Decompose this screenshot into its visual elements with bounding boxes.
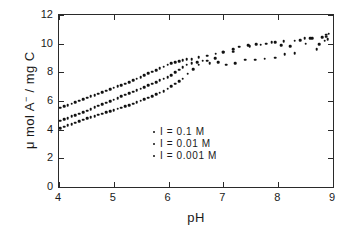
- data-point: [116, 108, 119, 111]
- data-point: [239, 46, 242, 49]
- data-point: [82, 98, 85, 101]
- data-point: [274, 56, 277, 59]
- data-point: [174, 61, 177, 64]
- data-point: [214, 57, 217, 60]
- data-point: [105, 89, 108, 92]
- chart-figure: μ mol A− / mg C pH 456789024681012 I = 0…: [0, 0, 346, 236]
- data-point: [70, 115, 73, 118]
- data-point: [143, 98, 146, 101]
- data-point: [132, 102, 135, 105]
- data-point: [97, 113, 100, 116]
- data-point: [113, 109, 116, 112]
- data-point: [109, 110, 112, 113]
- x-axis-tick: [278, 15, 279, 20]
- data-point: [59, 107, 61, 110]
- data-point: [254, 58, 257, 61]
- data-point: [225, 64, 228, 67]
- data-point: [159, 91, 162, 94]
- data-point: [289, 45, 292, 48]
- data-point: [74, 101, 77, 104]
- legend-item: I = 0.01 M: [148, 138, 258, 150]
- data-point: [327, 32, 330, 35]
- data-point: [186, 72, 189, 75]
- data-point: [78, 112, 81, 115]
- data-point: [147, 84, 150, 87]
- data-point: [132, 90, 135, 93]
- data-point: [86, 97, 89, 100]
- data-point: [282, 40, 285, 43]
- data-point: [86, 117, 89, 120]
- y-tick-label: 10: [29, 37, 53, 49]
- x-axis-tick: [278, 182, 279, 187]
- data-point: [182, 66, 185, 69]
- data-point: [93, 115, 96, 118]
- data-point: [206, 55, 209, 58]
- x-tick-label: 7: [211, 191, 233, 203]
- data-point: [74, 121, 77, 124]
- data-point: [178, 60, 181, 63]
- data-point: [59, 119, 61, 122]
- data-point: [116, 97, 119, 100]
- data-point: [178, 68, 181, 71]
- data-point: [101, 103, 104, 106]
- data-point: [155, 69, 158, 72]
- data-point: [222, 50, 225, 53]
- x-axis-tick: [114, 15, 115, 20]
- legend-marker-icon: [148, 131, 160, 134]
- data-point: [259, 44, 262, 47]
- data-point: [311, 37, 314, 40]
- x-axis-tick: [59, 182, 60, 187]
- data-point: [196, 61, 199, 64]
- data-point: [151, 70, 154, 73]
- y-axis-tick: [328, 158, 333, 159]
- chart-legend: I = 0.1 M I = 0.01 M I = 0.001 M: [148, 126, 258, 162]
- data-point: [234, 62, 237, 65]
- data-point: [124, 105, 127, 108]
- data-point: [192, 68, 195, 71]
- x-axis-tick: [169, 182, 170, 187]
- data-point: [170, 85, 173, 88]
- data-point: [206, 59, 209, 62]
- data-point: [136, 89, 139, 92]
- data-point: [128, 81, 131, 84]
- data-point: [162, 77, 165, 80]
- x-axis-tick: [223, 182, 224, 187]
- y-axis-tick: [59, 72, 64, 73]
- data-point: [293, 39, 296, 42]
- data-point: [263, 57, 266, 60]
- data-point: [63, 126, 66, 129]
- y-axis-tick: [59, 15, 64, 16]
- data-point: [151, 83, 154, 86]
- data-point: [128, 104, 131, 107]
- data-point: [139, 87, 142, 90]
- y-tick-label: 12: [29, 8, 53, 20]
- data-point: [139, 76, 142, 79]
- data-point: [208, 62, 211, 65]
- x-axis-tick: [169, 15, 170, 20]
- data-point: [274, 41, 277, 44]
- data-point: [174, 71, 177, 74]
- data-point: [66, 124, 69, 127]
- data-point: [159, 67, 162, 70]
- y-axis-tick: [328, 44, 333, 45]
- data-point: [82, 111, 85, 114]
- legend-item: I = 0.001 M: [148, 150, 258, 162]
- data-point: [248, 45, 251, 48]
- data-point: [214, 52, 217, 55]
- data-point: [323, 39, 326, 42]
- legend-item-label: I = 0.01 M: [160, 138, 211, 150]
- data-point: [185, 64, 188, 67]
- data-point: [190, 62, 193, 65]
- data-point: [166, 64, 169, 67]
- x-axis-tick: [59, 15, 60, 20]
- legend-item: I = 0.1 M: [148, 126, 258, 138]
- data-point: [97, 92, 100, 95]
- data-point: [74, 114, 77, 117]
- data-point: [124, 94, 127, 97]
- data-point: [197, 64, 200, 67]
- legend-item-label: I = 0.001 M: [160, 150, 217, 162]
- data-point: [155, 81, 158, 84]
- data-point: [66, 104, 69, 107]
- data-point: [101, 91, 104, 94]
- data-point: [105, 101, 108, 104]
